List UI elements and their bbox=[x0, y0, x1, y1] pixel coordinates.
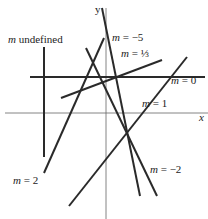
line-m-one-third bbox=[61, 60, 162, 98]
line-m-neg2 bbox=[86, 48, 157, 196]
slopes-diagram: x y m undefinedm = −5m = ⅓m = 0m = 1m = … bbox=[0, 0, 208, 219]
line-m-2 bbox=[44, 38, 104, 173]
x-axis-label: x bbox=[198, 111, 204, 123]
label-m-undefined: m undefined bbox=[8, 33, 63, 45]
label-m-neg5: m = −5 bbox=[112, 31, 144, 43]
label-m-0: m = 0 bbox=[171, 74, 197, 86]
label-m-neg2: m = −2 bbox=[150, 163, 181, 175]
label-m-2: m = 2 bbox=[13, 174, 38, 186]
label-m-one-third: m = ⅓ bbox=[121, 47, 149, 59]
label-m-1: m = 1 bbox=[142, 97, 167, 109]
y-axis-label: y bbox=[95, 3, 101, 15]
